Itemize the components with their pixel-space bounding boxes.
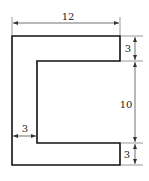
dimension-label-bottom-flange: 3 (124, 149, 130, 160)
dimension-label-web-height: 10 (120, 99, 133, 110)
c-section-drawing: 12 3 10 3 3 (0, 0, 149, 181)
dimension-label-top-flange: 3 (125, 43, 131, 54)
c-section-outline (12, 36, 120, 165)
dimension-label-web-thickness: 3 (22, 123, 28, 134)
dimension-label-width: 12 (62, 11, 75, 22)
